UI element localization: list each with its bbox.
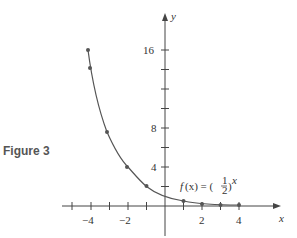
x-tick-neg2: −2 [119, 214, 131, 226]
x-axis [62, 202, 281, 210]
y-axis-label: y [170, 10, 176, 22]
x-tick-neg4: −4 [82, 214, 94, 226]
x-axis-label: x [278, 212, 284, 224]
y-tick-16: 16 [143, 44, 155, 56]
svg-text:x: x [231, 174, 237, 186]
y-axis [161, 13, 169, 236]
exponential-chart: 16 8 4 −4 −2 2 4 x y f (x) = ( 1 2 ) x [0, 0, 297, 238]
x-tick-2: 2 [199, 214, 205, 226]
y-axis-arrow-icon [162, 13, 168, 21]
x-axis-arrow-icon [273, 203, 281, 209]
y-tick-4: 4 [151, 161, 157, 173]
y-tick-8: 8 [151, 122, 157, 134]
x-tick-4: 4 [236, 214, 242, 226]
svg-text:(x) = (: (x) = ( [185, 180, 214, 193]
svg-text:2: 2 [222, 184, 228, 196]
function-label: f (x) = ( 1 2 ) x [180, 174, 237, 196]
